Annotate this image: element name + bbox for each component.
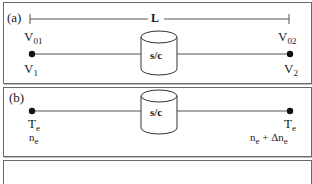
spacecraft-label: s/c (150, 50, 162, 61)
spacecraft-label: s/c (150, 107, 162, 118)
panel-c (3, 160, 312, 184)
right-temperature-label: Te (284, 117, 296, 133)
node-left (29, 108, 35, 114)
panel-b: (b) Te ne Te ne + Δne s/c (3, 87, 312, 157)
length-label: L (151, 12, 159, 24)
panel-label: (a) (7, 11, 21, 24)
left-density-label: ne (29, 132, 39, 146)
node-right (287, 108, 293, 114)
panel-label: (b) (9, 91, 24, 104)
right-reference-label: V02 (278, 30, 296, 46)
left-reference-label: V01 (24, 30, 42, 46)
node-v1 (29, 51, 35, 57)
panel-a: (a) L V01 V02 V1 V2 s/c (3, 2, 312, 84)
right-node-label: V2 (284, 62, 298, 78)
left-node-label: V1 (24, 62, 38, 78)
right-density-label: ne + Δne (250, 132, 288, 146)
node-v2 (287, 51, 293, 57)
